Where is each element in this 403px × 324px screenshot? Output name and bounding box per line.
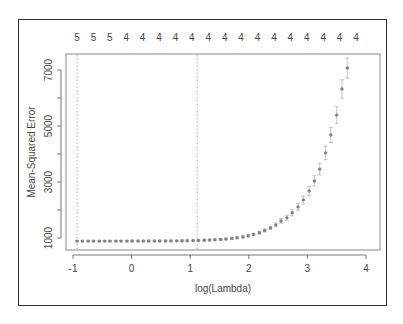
data-point: [329, 133, 332, 136]
data-point-group: [296, 204, 300, 211]
data-point-group: [80, 239, 84, 242]
y-tick-label: 1000: [43, 226, 54, 249]
data-point: [302, 198, 305, 201]
data-point-group: [180, 239, 184, 242]
data-point: [247, 234, 250, 237]
data-point: [235, 236, 238, 239]
data-point-group: [175, 239, 179, 242]
data-point-group: [335, 107, 339, 124]
x-tick-label: 2: [246, 263, 252, 274]
top-axis-label: 5: [91, 32, 97, 43]
data-point: [230, 237, 233, 240]
data-point: [180, 239, 183, 242]
data-point-group: [224, 237, 228, 240]
x-tick-label: 3: [305, 263, 311, 274]
data-point: [208, 238, 211, 241]
data-point-group: [92, 239, 96, 242]
data-point-group: [246, 234, 250, 237]
data-point: [279, 219, 282, 222]
data-point: [290, 211, 293, 214]
top-axis-label: 4: [123, 32, 129, 43]
data-point: [219, 238, 222, 241]
data-point: [285, 216, 288, 219]
data-point-group: [130, 239, 134, 242]
data-point: [103, 239, 106, 242]
data-point-group: [268, 226, 272, 229]
data-point: [169, 239, 172, 242]
data-point-group: [230, 237, 234, 240]
top-axis-label: 4: [271, 32, 277, 43]
top-axis-label: 4: [288, 32, 294, 43]
data-point: [119, 239, 122, 242]
data-point-group: [235, 236, 239, 239]
data-point: [307, 189, 310, 192]
data-point: [318, 167, 321, 170]
data-points: [75, 58, 349, 243]
data-point-group: [191, 239, 195, 242]
data-point: [313, 179, 316, 182]
data-point-group: [119, 239, 123, 242]
data-point-group: [301, 196, 305, 204]
data-point: [164, 239, 167, 242]
data-point: [224, 237, 227, 240]
data-point-group: [318, 163, 322, 175]
data-point: [130, 239, 133, 242]
data-point-group: [285, 215, 289, 220]
data-point-group: [340, 80, 344, 98]
top-axis-label: 4: [140, 32, 146, 43]
data-point-group: [125, 239, 129, 242]
data-point: [269, 226, 272, 229]
data-point-group: [324, 146, 328, 159]
data-point-group: [147, 239, 151, 242]
data-point: [153, 239, 156, 242]
data-point-group: [345, 58, 349, 78]
data-point: [158, 239, 161, 242]
x-axis: -101234: [69, 255, 370, 274]
data-point: [340, 87, 343, 90]
top-axis-label: 5: [74, 32, 80, 43]
top-axis-label: 4: [304, 32, 310, 43]
data-point: [263, 229, 266, 232]
data-point: [147, 239, 150, 242]
x-tick-label: -1: [69, 263, 78, 274]
data-point: [191, 239, 194, 242]
y-tick-label: 3000: [43, 170, 54, 193]
data-point: [203, 239, 206, 242]
data-point-group: [108, 239, 112, 242]
data-point: [197, 239, 200, 242]
data-point: [92, 239, 95, 242]
data-point-group: [263, 229, 267, 232]
data-point: [213, 238, 216, 241]
data-point-group: [307, 186, 311, 195]
data-point-group: [279, 219, 283, 223]
data-point-group: [241, 235, 245, 238]
x-tick-label: 0: [129, 263, 135, 274]
data-point: [108, 239, 111, 242]
data-point-group: [185, 239, 189, 242]
top-axis-label: 4: [206, 32, 212, 43]
top-axis-label: 4: [156, 32, 162, 43]
y-axis: 1000300050007000: [43, 58, 61, 249]
data-point: [114, 239, 117, 242]
data-point-group: [75, 239, 79, 242]
data-point: [324, 151, 327, 154]
top-axis-label: 4: [222, 32, 228, 43]
data-point: [335, 113, 338, 116]
data-point: [81, 239, 84, 242]
data-point-group: [136, 239, 140, 242]
top-axis-labels: 555444444444444444: [74, 32, 359, 43]
data-point-group: [202, 239, 206, 242]
x-axis-title: log(Lambda): [195, 283, 251, 294]
data-point: [252, 233, 255, 236]
data-point: [274, 223, 277, 226]
data-point: [186, 239, 189, 242]
data-point-group: [86, 239, 90, 242]
top-axis-label: 4: [337, 32, 343, 43]
data-point-group: [251, 233, 255, 236]
data-point: [346, 66, 349, 69]
data-point-group: [329, 127, 333, 142]
data-point-group: [114, 239, 118, 242]
top-axis-label: 4: [255, 32, 261, 43]
data-point: [142, 239, 145, 242]
x-tick-label: 1: [187, 263, 193, 274]
